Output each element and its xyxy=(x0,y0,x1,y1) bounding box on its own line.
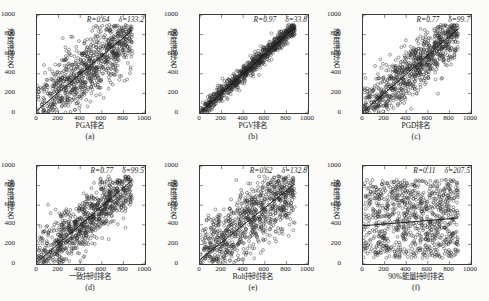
x-tick-label: 600 xyxy=(96,115,107,122)
x-tick-label: 0 xyxy=(197,266,201,273)
panel-e-plot-area xyxy=(199,165,309,265)
y-tick-label: 200 xyxy=(5,240,16,247)
y-tick-label: 800 xyxy=(168,181,179,188)
panel-d-points xyxy=(37,166,145,264)
panel-c-plot-area xyxy=(362,14,472,114)
x-tick-label: 400 xyxy=(400,115,411,122)
y-tick-label: 800 xyxy=(168,30,179,37)
panel-e-xlabel: Bolt持时排名 xyxy=(199,273,307,281)
x-tick-label: 600 xyxy=(422,266,433,273)
x-tick-label: 200 xyxy=(378,115,389,122)
x-tick-label: 800 xyxy=(117,266,128,273)
panel-a-xlabel: PGA排名 xyxy=(36,122,144,130)
y-tick-label: 1000 xyxy=(1,11,15,18)
x-tick-label: 600 xyxy=(259,115,270,122)
x-tick-label: 1000 xyxy=(463,115,477,122)
x-tick-label: 0 xyxy=(34,115,38,122)
panel-c-caption: (c) xyxy=(362,133,470,141)
y-tick-label: 600 xyxy=(168,50,179,57)
panel-e-caption: (e) xyxy=(199,284,307,292)
x-tick-label: 1000 xyxy=(137,266,151,273)
panel-b-plot-area xyxy=(199,14,309,114)
x-tick-label: 800 xyxy=(443,115,454,122)
y-tick-label: 200 xyxy=(331,89,342,96)
y-tick-label: 200 xyxy=(5,89,16,96)
x-tick-label: 0 xyxy=(197,115,201,122)
panel-a-points xyxy=(37,15,145,113)
x-tick-label: 800 xyxy=(280,266,291,273)
y-tick-label: 400 xyxy=(331,69,342,76)
x-tick-label: 1000 xyxy=(463,266,477,273)
y-tick-label: 800 xyxy=(331,30,342,37)
y-tick-label: 0 xyxy=(175,109,179,116)
panel-d-plot-area xyxy=(36,165,146,265)
panel-f: 速度谱排名 R=0.11 δ=207.5 90%能量持时排名 (f) 02004… xyxy=(326,151,489,301)
panel-b: 速度谱排名 R=0.97 δ=33.8 PGV排名 (b) 0200400600… xyxy=(163,0,326,150)
panel-c-xlabel: PGD排名 xyxy=(362,122,470,130)
x-tick-label: 1000 xyxy=(300,115,314,122)
y-tick-label: 600 xyxy=(5,201,16,208)
x-tick-label: 200 xyxy=(52,115,63,122)
y-tick-label: 1000 xyxy=(164,162,178,169)
x-tick-label: 1000 xyxy=(137,115,151,122)
x-tick-label: 200 xyxy=(215,115,226,122)
panel-d: 速度谱排名 R=0.77 δ=99.5 一致持时排名 (d) 020040060… xyxy=(0,151,163,301)
panel-f-points xyxy=(363,166,471,264)
y-tick-label: 400 xyxy=(168,220,179,227)
x-tick-label: 0 xyxy=(34,266,38,273)
x-tick-label: 400 xyxy=(74,266,85,273)
x-tick-label: 600 xyxy=(259,266,270,273)
x-tick-label: 400 xyxy=(237,266,248,273)
x-tick-label: 0 xyxy=(360,266,364,273)
y-tick-label: 400 xyxy=(168,69,179,76)
y-tick-label: 400 xyxy=(331,220,342,227)
x-tick-label: 800 xyxy=(280,115,291,122)
y-tick-label: 200 xyxy=(168,240,179,247)
panel-a-plot-area xyxy=(36,14,146,114)
panel-e: 速度谱排名 R=0.62 δ=132.8 Bolt持时排名 (e) 020040… xyxy=(163,151,326,301)
y-tick-label: 0 xyxy=(12,260,16,267)
panel-d-caption: (d) xyxy=(36,284,144,292)
y-tick-label: 0 xyxy=(338,260,342,267)
x-tick-label: 400 xyxy=(400,266,411,273)
x-tick-label: 800 xyxy=(443,266,454,273)
panel-b-caption: (b) xyxy=(199,133,307,141)
panel-d-xlabel: 一致持时排名 xyxy=(36,273,144,281)
y-tick-label: 1000 xyxy=(1,162,15,169)
y-tick-label: 200 xyxy=(168,89,179,96)
y-tick-label: 600 xyxy=(331,201,342,208)
x-tick-label: 200 xyxy=(52,266,63,273)
x-tick-label: 1000 xyxy=(300,266,314,273)
y-tick-label: 0 xyxy=(338,109,342,116)
y-tick-label: 600 xyxy=(331,50,342,57)
y-tick-label: 0 xyxy=(12,109,16,116)
panel-f-caption: (f) xyxy=(362,284,470,292)
x-tick-label: 600 xyxy=(96,266,107,273)
y-tick-label: 1000 xyxy=(164,11,178,18)
panel-e-points xyxy=(200,166,308,264)
y-tick-label: 800 xyxy=(5,181,16,188)
x-tick-label: 600 xyxy=(422,115,433,122)
panel-c: 速度谱排名 R=0.77 δ=99.7 PGD排名 (c) 0200400600… xyxy=(326,0,489,150)
y-tick-label: 0 xyxy=(175,260,179,267)
x-tick-label: 0 xyxy=(360,115,364,122)
x-tick-label: 200 xyxy=(215,266,226,273)
y-tick-label: 800 xyxy=(5,30,16,37)
panel-a: 速度谱排名 R=0.64 δ=133.2 PGA排名 (a) 020040060… xyxy=(0,0,163,150)
y-tick-label: 800 xyxy=(331,181,342,188)
panel-f-xlabel: 90%能量持时排名 xyxy=(362,273,470,281)
y-tick-label: 400 xyxy=(5,220,16,227)
panel-c-points xyxy=(363,15,471,113)
y-tick-label: 400 xyxy=(5,69,16,76)
panel-b-xlabel: PGV排名 xyxy=(199,122,307,130)
panel-a-caption: (a) xyxy=(36,133,144,141)
x-tick-label: 800 xyxy=(117,115,128,122)
panel-b-points xyxy=(200,15,308,113)
scatter-plot-figure: 速度谱排名 R=0.64 δ=133.2 PGA排名 (a) 020040060… xyxy=(0,0,489,301)
x-tick-label: 200 xyxy=(378,266,389,273)
y-tick-label: 1000 xyxy=(327,11,341,18)
y-tick-label: 1000 xyxy=(327,162,341,169)
y-tick-label: 600 xyxy=(5,50,16,57)
x-tick-label: 400 xyxy=(74,115,85,122)
x-tick-label: 400 xyxy=(237,115,248,122)
